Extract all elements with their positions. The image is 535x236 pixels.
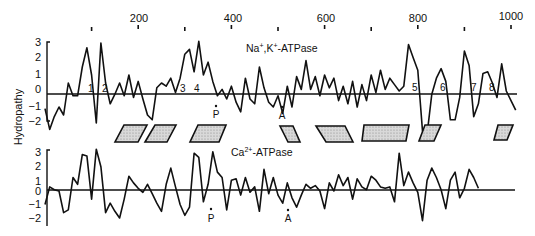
x-tick-600 [324,25,326,29]
x-tick-marks [91,25,512,31]
x-tick-label-800: 800 [409,12,427,24]
lower-site-p-label: P [208,213,215,224]
upper-y-tick-neg1: −1 [28,100,41,112]
x-tick-400 [231,25,233,29]
alignment-block-1 [115,125,147,142]
y-axis-label: Hydropathy [12,88,24,145]
segment-label-4: 4 [194,83,200,94]
upper-site-a-dot [281,106,283,108]
x-tick-300 [184,27,186,31]
upper-site-p-dot [215,105,217,107]
x-tick-800 [417,25,419,29]
lower-y-tick-3: 3 [35,146,41,158]
upper-series-title: Na+,K+-ATPase [246,42,318,54]
x-tick-700 [370,27,372,31]
segment-label-6: 6 [440,82,446,93]
lower-site-a-dot [287,209,289,211]
lower-y-ticks: 3 2 1 0 −1 −2 [28,146,41,224]
upper-y-tick-2: 2 [35,51,41,63]
segment-label-1: 1 [88,83,94,94]
x-tick-1000 [510,25,512,29]
x-tick-900 [464,27,466,31]
upper-y-tick-neg2: −2 [28,115,41,127]
upper-y-ticks: 3 2 1 0 −1 −2 [28,36,41,127]
segment-label-2: 2 [102,83,108,94]
lower-panel-ca-atpase: 3 2 1 0 −1 −2 Ca2+-ATPase P A [28,146,515,226]
lower-y-tick-0: 0 [35,185,41,197]
lower-site-a-label: A [285,213,292,224]
alignment-block-6 [362,125,409,141]
lower-hydropathy-trace [45,149,478,221]
x-tick-label-200: 200 [130,12,148,24]
alignment-block-2 [145,125,176,142]
lower-y-tick-2: 2 [35,160,41,172]
x-tick-label-600: 600 [317,12,335,24]
lower-series-title: Ca2+-ATPase [231,146,293,158]
upper-y-tick-0: 0 [35,83,41,95]
x-tick-100 [91,27,93,31]
segment-label-7: 7 [471,82,477,93]
lower-y-tick-neg2: −2 [28,212,41,224]
upper-site-p-label: P [213,109,220,120]
upper-y-tick-1: 1 [35,68,41,80]
alignment-blocks [115,125,513,142]
x-tick-500 [277,27,279,31]
hydropathy-figure: 200 400 600 800 1000 Hydropathy 3 2 1 0 … [0,0,535,236]
segment-label-8: 8 [489,82,495,93]
upper-y-axis [47,42,50,121]
upper-site-a-label: A [279,110,286,121]
x-tick-label-400: 400 [224,12,242,24]
alignment-block-5 [316,126,353,142]
lower-site-p-dot [210,208,212,210]
top-axis: 200 400 600 800 1000 [91,10,523,31]
alignment-block-4 [280,126,300,142]
upper-panel-na-k-atpase: 3 2 1 0 −1 −2 Na+,K+-ATPase 1 2 3 4 5 6 … [28,36,517,134]
segment-label-5: 5 [412,82,418,93]
upper-y-tick-3: 3 [35,36,41,48]
alignment-block-3 [190,125,226,142]
alignment-block-8 [494,125,513,140]
x-tick-200 [137,25,139,29]
segment-label-3: 3 [180,83,186,94]
lower-y-tick-neg1: −1 [28,198,41,210]
x-tick-label-1000: 1000 [499,10,523,22]
